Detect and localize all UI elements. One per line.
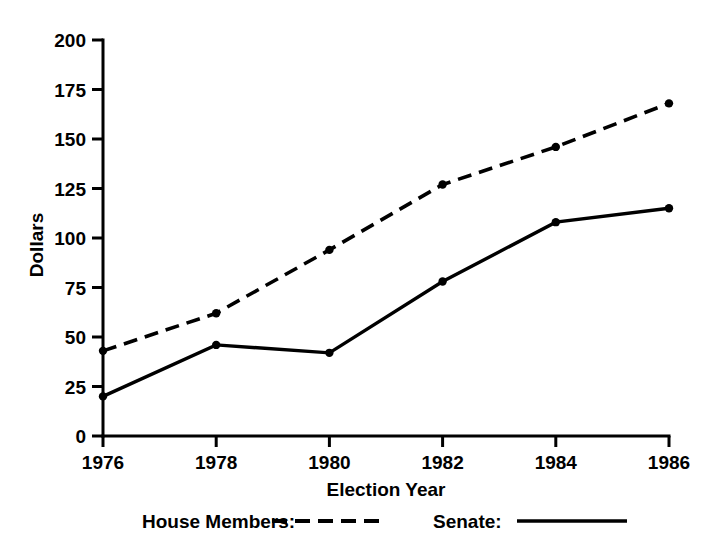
y-tick-label: 125 xyxy=(54,179,86,200)
data-point-marker xyxy=(552,218,560,226)
y-tick-label: 200 xyxy=(54,30,86,51)
x-tick-label: 1984 xyxy=(535,452,578,473)
data-point-marker xyxy=(99,347,107,355)
data-point-marker xyxy=(665,204,673,212)
y-tick-label: 25 xyxy=(65,377,87,398)
data-point-marker xyxy=(212,341,220,349)
y-axis-title: Dollars xyxy=(26,213,47,277)
y-tick-label: 100 xyxy=(54,228,86,249)
data-point-marker xyxy=(665,99,673,107)
x-axis-ticks xyxy=(103,436,669,447)
series-line xyxy=(103,103,669,350)
y-tick-label: 175 xyxy=(54,80,86,101)
series-line xyxy=(103,208,669,396)
x-tick-label: 1982 xyxy=(421,452,463,473)
y-axis-tick-labels: 200 175 150 125 100 75 50 25 0 xyxy=(54,30,86,447)
data-point-marker xyxy=(438,180,446,188)
series-layer xyxy=(99,99,673,400)
y-axis-ticks xyxy=(92,40,103,436)
x-tick-label: 1986 xyxy=(648,452,690,473)
chart-container: 200 175 150 125 100 75 50 25 0 1976 1978… xyxy=(0,0,717,556)
y-tick-label: 50 xyxy=(65,327,86,348)
line-chart: 200 175 150 125 100 75 50 25 0 1976 1978… xyxy=(0,0,717,556)
x-axis-title: Election Year xyxy=(327,479,447,500)
legend-label-senate: Senate: xyxy=(433,511,502,532)
chart-legend: House Members: Senate: xyxy=(142,511,627,532)
data-point-marker xyxy=(438,277,446,285)
x-axis-tick-labels: 1976 1978 1980 1982 1984 1986 xyxy=(82,452,690,473)
data-point-marker xyxy=(99,392,107,400)
y-tick-label: 75 xyxy=(65,278,87,299)
y-tick-label: 0 xyxy=(75,426,86,447)
data-point-marker xyxy=(552,143,560,151)
data-point-marker xyxy=(325,246,333,254)
data-point-marker xyxy=(325,349,333,357)
x-tick-label: 1976 xyxy=(82,452,124,473)
x-tick-label: 1980 xyxy=(308,452,350,473)
data-point-marker xyxy=(212,309,220,317)
x-tick-label: 1978 xyxy=(195,452,237,473)
series-senate xyxy=(99,204,673,400)
y-tick-label: 150 xyxy=(54,129,86,150)
